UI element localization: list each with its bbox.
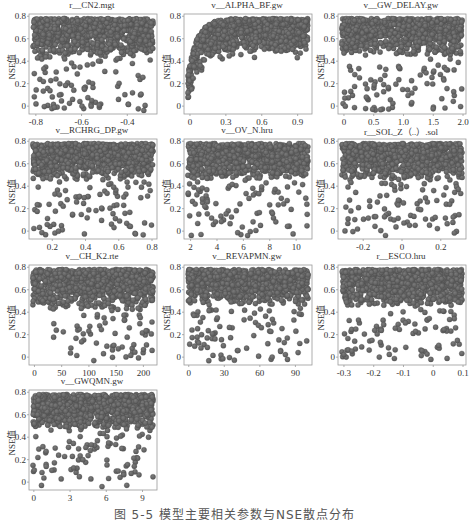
scatter-plot: 00.20.40.60.800.51.01.52.0 [309, 0, 469, 125]
svg-text:0: 0 [431, 368, 436, 378]
svg-text:0.2: 0.2 [170, 79, 181, 89]
svg-text:0.2: 0.2 [15, 79, 26, 89]
svg-text:0.2: 0.2 [324, 204, 335, 214]
svg-text:0: 0 [331, 101, 336, 111]
scatter-plot: 00.20.40.60.8246810 [155, 125, 315, 250]
svg-text:0.8: 0.8 [15, 11, 27, 21]
scatter-figure: r__CN2.mgt NSE值 00.20.40.60.8-0.8-0.6-0.… [0, 0, 469, 520]
svg-text:9: 9 [140, 493, 145, 503]
svg-text:0: 0 [177, 352, 182, 362]
svg-text:0.8: 0.8 [170, 11, 182, 21]
svg-text:0.2: 0.2 [15, 455, 26, 465]
scatter-plot: 00.20.40.60.8-0.8-0.6-0.4 [0, 0, 160, 125]
svg-text:0.4: 0.4 [170, 181, 182, 191]
svg-text:0.4: 0.4 [15, 432, 27, 442]
svg-text:0.4: 0.4 [170, 56, 182, 66]
svg-text:0.4: 0.4 [324, 181, 336, 191]
svg-text:0.4: 0.4 [324, 56, 336, 66]
scatter-plot: 00.20.40.60.80369 [0, 376, 160, 501]
scatter-panel-alpha-bf: v__ALPHA_BF.gw NSE值 00.20.40.60.800.30.6… [155, 0, 311, 125]
svg-text:0.4: 0.4 [15, 181, 27, 191]
svg-text:90: 90 [291, 368, 301, 378]
scatter-plot: 00.20.40.60.8-0.3-0.2-0.100.1 [309, 251, 469, 376]
svg-text:0: 0 [22, 101, 27, 111]
svg-text:-0.1: -0.1 [396, 368, 410, 378]
svg-text:0: 0 [22, 477, 27, 487]
scatter-panel-ch-k2: v__CH_K2.rte NSE值 00.20.40.60.8050100150… [0, 251, 156, 376]
svg-text:0.2: 0.2 [15, 330, 26, 340]
svg-text:0.6: 0.6 [170, 34, 182, 44]
svg-text:0: 0 [186, 368, 191, 378]
svg-text:0.8: 0.8 [324, 11, 336, 21]
svg-text:-0.2: -0.2 [367, 368, 381, 378]
svg-text:0.6: 0.6 [324, 34, 336, 44]
svg-text:0.6: 0.6 [15, 159, 27, 169]
svg-text:0: 0 [331, 226, 336, 236]
svg-text:0: 0 [177, 226, 182, 236]
svg-text:60: 60 [255, 368, 265, 378]
svg-text:0.6: 0.6 [15, 34, 27, 44]
scatter-panel-revapmn: v__REVAPMN.gw NSE值 00.20.40.60.80306090 [155, 251, 311, 376]
scatter-panel-gw-delay: v__GW_DELAY.gw NSE值 00.20.40.60.800.51.0… [309, 0, 465, 125]
svg-text:0.6: 0.6 [324, 159, 336, 169]
svg-text:0.1: 0.1 [457, 368, 468, 378]
svg-text:0: 0 [22, 352, 27, 362]
scatter-panel-rchrg-dp: v__RCHRG_DP.gw NSE值 00.20.40.60.80.20.40… [0, 125, 156, 250]
scatter-panel-cn2: r__CN2.mgt NSE值 00.20.40.60.8-0.8-0.6-0.… [0, 0, 156, 125]
scatter-plot: 00.20.40.60.800.30.60.9 [155, 0, 315, 125]
scatter-plot: 00.20.40.60.8050100150200 [0, 251, 160, 376]
svg-text:0.4: 0.4 [324, 307, 336, 317]
svg-text:0.8: 0.8 [170, 262, 182, 272]
svg-text:0.2: 0.2 [170, 330, 181, 340]
scatter-panel-ov-n: v__OV_N.hru NSE值 00.20.40.60.8246810 [155, 125, 311, 250]
svg-text:30: 30 [220, 368, 230, 378]
svg-text:0.4: 0.4 [15, 56, 27, 66]
svg-text:3: 3 [68, 493, 73, 503]
svg-text:-0.3: -0.3 [337, 368, 352, 378]
svg-text:0.6: 0.6 [170, 285, 182, 295]
svg-text:0.6: 0.6 [15, 410, 27, 420]
scatter-plot: 00.20.40.60.80306090 [155, 251, 315, 376]
svg-text:0.2: 0.2 [324, 79, 335, 89]
scatter-panel-gwqmn: v__GWQMN.gw NSE值 00.20.40.60.80369 [0, 376, 156, 501]
svg-text:0.8: 0.8 [15, 262, 27, 272]
svg-text:0.6: 0.6 [324, 285, 336, 295]
scatter-panel-sol-z: r__SOL_Z（..）.sol NSE值 00.20.40.60.8-0.20… [309, 125, 465, 250]
svg-text:0.2: 0.2 [15, 204, 26, 214]
figure-caption: 图 5-5 模型主要相关参数与NSE散点分布 [0, 505, 469, 520]
scatter-plot: 00.20.40.60.80.20.40.60.8 [0, 125, 160, 250]
svg-text:0.6: 0.6 [170, 159, 182, 169]
svg-text:0.4: 0.4 [15, 307, 27, 317]
scatter-plot: 00.20.40.60.8-0.200.2 [309, 125, 469, 250]
svg-text:0.2: 0.2 [170, 204, 181, 214]
svg-text:0.8: 0.8 [170, 136, 182, 146]
scatter-panel-esco: r__ESCO.hru NSE值 00.20.40.60.8-0.3-0.2-0… [309, 251, 465, 376]
svg-text:0.8: 0.8 [15, 136, 27, 146]
svg-text:0.8: 0.8 [15, 387, 27, 397]
svg-text:0.8: 0.8 [324, 262, 336, 272]
svg-text:6: 6 [104, 493, 109, 503]
svg-text:0.6: 0.6 [15, 285, 27, 295]
svg-text:0.2: 0.2 [324, 330, 335, 340]
svg-text:0: 0 [22, 226, 27, 236]
svg-text:0.4: 0.4 [170, 307, 182, 317]
svg-text:0: 0 [177, 101, 182, 111]
svg-text:0: 0 [32, 493, 37, 503]
svg-text:0.8: 0.8 [324, 136, 336, 146]
svg-text:0: 0 [331, 352, 336, 362]
